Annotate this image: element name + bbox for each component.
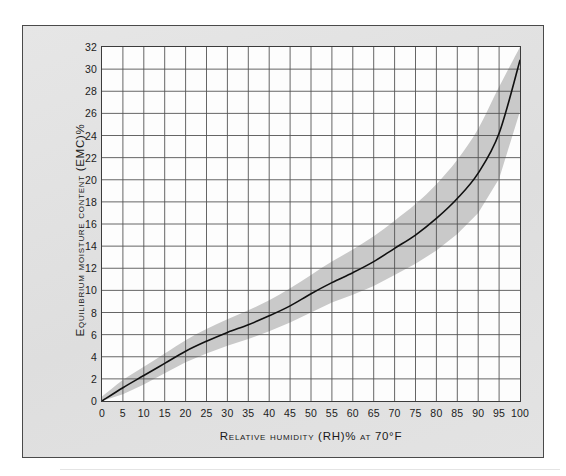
y-tick-label: 32 (75, 41, 97, 53)
y-tick-label: 18 (75, 196, 97, 208)
y-tick-label: 12 (75, 262, 97, 274)
x-axis-label: Relative humidity (RH)% at 70°F (101, 430, 521, 442)
y-tick-label: 10 (75, 284, 97, 296)
y-tick-label: 22 (75, 152, 97, 164)
plot-svg (102, 47, 520, 401)
y-tick-label: 20 (75, 174, 97, 186)
y-tick-label: 30 (75, 63, 97, 75)
y-tick-label: 14 (75, 240, 97, 252)
x-axis-tick-labels: 0510152025303540455055606570758085909510… (101, 407, 521, 423)
y-tick-label: 0 (75, 395, 97, 407)
plot-area-wrapper (101, 46, 521, 402)
y-tick-label: 4 (75, 351, 97, 363)
x-tick-label: 100 (507, 407, 533, 419)
y-axis-tick-labels: 02468101214161820222426283032 (71, 46, 97, 402)
y-tick-label: 28 (75, 85, 97, 97)
y-tick-label: 2 (75, 373, 97, 385)
y-tick-label: 8 (75, 307, 97, 319)
emc-rh-chart-figure: Equilibrium moisture content (EMC)% 0246… (0, 0, 566, 476)
y-tick-label: 16 (75, 218, 97, 230)
y-tick-label: 26 (75, 107, 97, 119)
bottom-divider (60, 469, 560, 470)
grid-lines (102, 47, 520, 401)
chart-panel: Equilibrium moisture content (EMC)% 0246… (22, 25, 544, 458)
plot-area (101, 46, 521, 402)
y-tick-label: 24 (75, 130, 97, 142)
y-tick-label: 6 (75, 329, 97, 341)
